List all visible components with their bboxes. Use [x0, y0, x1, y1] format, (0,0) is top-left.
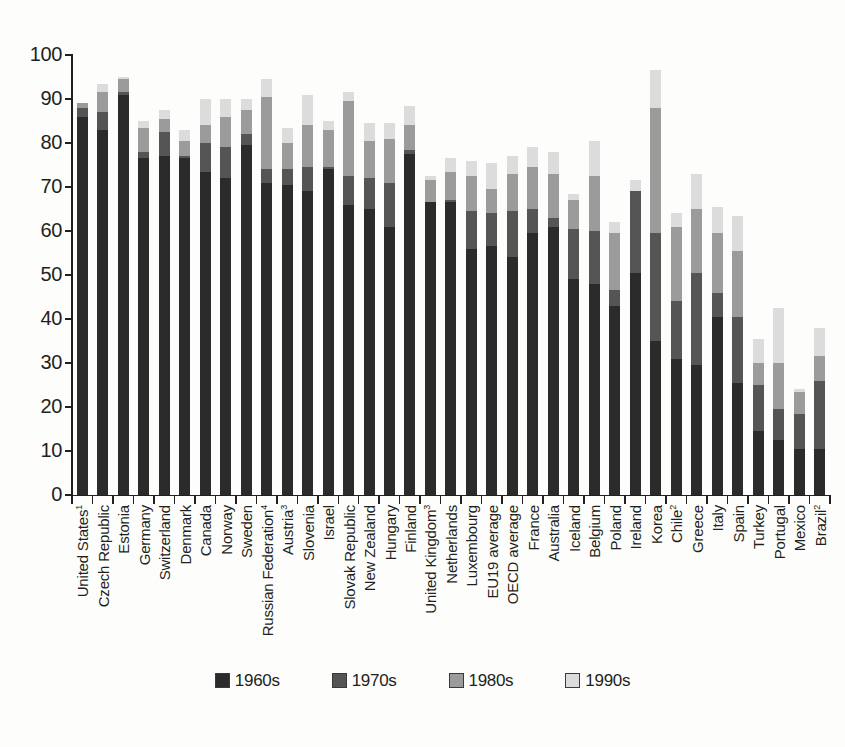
- x-label-slot: Iceland: [564, 505, 584, 660]
- bar-segment-1970s: [753, 385, 764, 431]
- bar-segment-1980s: [261, 97, 272, 170]
- bar-segment-1980s: [302, 125, 313, 167]
- y-tick-mark: [65, 494, 71, 496]
- bar: [650, 70, 661, 495]
- bar-segment-1980s: [466, 176, 477, 211]
- bar-segment-1990s: [609, 222, 620, 233]
- bar-segment-1960s: [282, 185, 293, 495]
- bar: [425, 176, 436, 495]
- x-label-slot: France: [523, 505, 543, 660]
- x-label-slot: Norway: [215, 505, 235, 660]
- bar-slot: [748, 55, 768, 495]
- x-tick-mark: [420, 495, 440, 504]
- bar: [630, 180, 641, 495]
- bar-segment-1970s: [568, 229, 579, 280]
- x-tick-mark: [236, 495, 256, 504]
- y-tick-mark: [65, 318, 71, 320]
- x-axis-label: OECD average: [505, 505, 520, 604]
- bar-segment-1970s: [814, 381, 825, 449]
- x-tick-mark: [584, 495, 604, 504]
- bar-segment-1990s: [282, 128, 293, 143]
- x-tick-mark: [113, 495, 133, 504]
- x-label-slot: United States1: [72, 505, 92, 660]
- y-tick-label: 60: [41, 220, 62, 240]
- bar-slot: [666, 55, 686, 495]
- x-tick-mark: [318, 495, 338, 504]
- x-tick-mark: [195, 495, 215, 504]
- bar-segment-1970s: [138, 152, 149, 159]
- y-tick-label: 40: [41, 308, 62, 328]
- legend-label: 1960s: [235, 672, 280, 689]
- bar-slot: [92, 55, 112, 495]
- stacked-bar-chart: 0102030405060708090100 United States1Cze…: [0, 0, 845, 747]
- bar-segment-1960s: [404, 154, 415, 495]
- chart-legend: 1960s1970s1980s1990s: [0, 672, 845, 689]
- bar-slot: [502, 55, 522, 495]
- bar: [753, 339, 764, 495]
- bar-segment-1990s: [445, 158, 456, 171]
- y-tick-label: 0: [51, 484, 62, 504]
- bar-segment-1990s: [343, 92, 354, 101]
- x-label-slot: Mexico: [789, 505, 809, 660]
- bar: [814, 328, 825, 495]
- bar-segment-1960s: [97, 130, 108, 495]
- bar-segment-1970s: [548, 218, 559, 227]
- legend-item: 1970s: [332, 672, 397, 689]
- bar: [220, 99, 231, 495]
- bar-segment-1960s: [548, 227, 559, 495]
- x-label-slot: EU19 average: [482, 505, 502, 660]
- bar-segment-1960s: [507, 257, 518, 495]
- x-label-slot: Greece: [687, 505, 707, 660]
- bar-segment-1960s: [794, 449, 805, 495]
- y-tick-label: 30: [41, 352, 62, 372]
- y-tick-mark: [65, 230, 71, 232]
- bar-segment-1970s: [282, 169, 293, 184]
- x-tick-mark: [277, 495, 297, 504]
- x-label-footnote: 1: [74, 505, 84, 510]
- bar: [712, 207, 723, 495]
- bar-segment-1970s: [671, 301, 682, 358]
- bar: [97, 84, 108, 495]
- x-axis-label: Netherlands: [443, 505, 458, 584]
- bar-segment-1970s: [630, 191, 641, 272]
- bar-segment-1980s: [568, 200, 579, 229]
- bar-segment-1980s: [179, 141, 190, 156]
- y-tick-mark: [65, 186, 71, 188]
- bar-segment-1980s: [364, 141, 375, 178]
- x-tick-mark: [625, 495, 645, 504]
- y-tick-mark: [65, 362, 71, 364]
- bar: [200, 99, 211, 495]
- legend-swatch-1980s: [449, 673, 464, 688]
- bar-segment-1980s: [97, 92, 108, 112]
- bar-segment-1990s: [568, 194, 579, 201]
- bar-segment-1960s: [466, 249, 477, 495]
- bar-segment-1990s: [466, 161, 477, 176]
- x-label-slot: Sweden: [236, 505, 256, 660]
- bar-segment-1970s: [97, 112, 108, 130]
- bar-segment-1990s: [732, 216, 743, 251]
- bar-segment-1980s: [343, 101, 354, 176]
- legend-item: 1980s: [449, 672, 514, 689]
- bar-slot: [277, 55, 297, 495]
- bar-slot: [543, 55, 563, 495]
- y-tick-label: 20: [41, 396, 62, 416]
- x-label-footnote: 3: [279, 505, 289, 510]
- x-axis-label: Israel: [321, 505, 336, 540]
- x-axis-label: Ireland: [628, 505, 643, 549]
- bar-slot: [605, 55, 625, 495]
- bar-segment-1960s: [568, 279, 579, 495]
- bar-slot: [420, 55, 440, 495]
- x-tick-mark: [564, 495, 584, 504]
- bar-segment-1980s: [548, 174, 559, 218]
- x-tick-mark: [687, 495, 707, 504]
- bar-slot: [113, 55, 133, 495]
- bar-segment-1960s: [814, 449, 825, 495]
- y-tick-label: 10: [41, 440, 62, 460]
- bar: [343, 92, 354, 495]
- x-tick-mark: [133, 495, 153, 504]
- x-label-slot: Canada: [195, 505, 215, 660]
- bar-segment-1970s: [159, 132, 170, 156]
- x-label-slot: Luxembourg: [461, 505, 481, 660]
- x-tick-mark: [809, 495, 829, 504]
- bar-segment-1990s: [712, 207, 723, 233]
